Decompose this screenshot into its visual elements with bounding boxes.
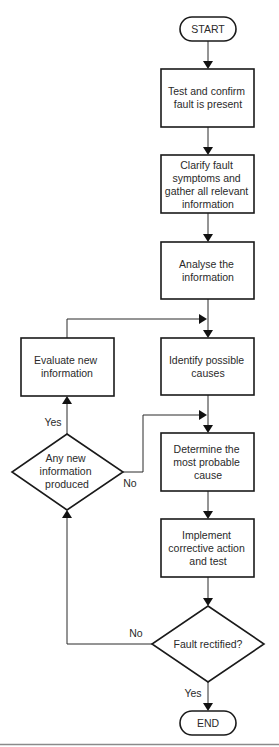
step-text: information: [182, 198, 234, 210]
step-clarify: Clarify fault symptoms and gather all re…: [161, 155, 254, 213]
svg-text:Test and confirm fault i: Test and confirm fault is present: [168, 85, 248, 110]
decision-text: Any new: [45, 452, 86, 464]
svg-text:Any new information: Any new information produced: [40, 452, 95, 490]
step-text: Analyse the: [179, 258, 234, 270]
step-text: fault is present: [174, 98, 242, 110]
step-text: Clarify fault: [180, 159, 233, 171]
step-implement: Implement corrective action and test: [161, 519, 254, 577]
decision-any-new-info: Any new information produced Yes No: [12, 416, 137, 510]
step-test-confirm: Test and confirm fault is present: [161, 69, 254, 127]
arrow-down-icon: [203, 598, 213, 606]
step-identify: Identify possible causes: [161, 338, 254, 395]
arrow-down-icon: [203, 425, 213, 433]
no-label: No: [123, 477, 137, 489]
step-analyse: Analyse the information: [161, 242, 254, 299]
arrow-right-icon: [199, 410, 207, 420]
step-text: corrective action: [168, 542, 245, 554]
arrow-down-icon: [203, 234, 213, 242]
step-text: Test and confirm: [168, 85, 245, 97]
fault-finding-flowchart: START Test and confirm fault is present …: [0, 0, 279, 747]
yes-label: Yes: [44, 416, 61, 428]
step-text: Implement: [182, 529, 231, 541]
end-terminator: END: [180, 711, 236, 735]
svg-text:Evaluate new information: Evaluate new information: [34, 354, 100, 379]
arrow-down-icon: [203, 330, 213, 338]
yes-label: Yes: [184, 687, 201, 699]
step-text: information: [41, 367, 93, 379]
arrow-up-icon: [62, 396, 72, 404]
no-label: No: [129, 627, 143, 639]
end-label: END: [197, 717, 220, 729]
start-terminator: START: [180, 17, 236, 41]
step-text: causes: [191, 367, 224, 379]
step-text: most probable: [173, 456, 240, 468]
step-text: Determine the: [174, 443, 240, 455]
svg-text:Analyse the information: Analyse the information: [179, 258, 237, 283]
step-text: gather all relevant: [165, 185, 249, 197]
decision-text: information: [40, 465, 92, 477]
decision-text: Fault rectified?: [174, 638, 243, 650]
step-text: symptoms and: [172, 172, 240, 184]
arrow-down-icon: [203, 703, 213, 711]
arrow-down-icon: [203, 61, 213, 69]
step-text: and test: [189, 555, 226, 567]
start-label: START: [191, 23, 225, 35]
arrow-right-icon: [199, 314, 207, 324]
step-text: cause: [194, 469, 222, 481]
decision-fault-rectified: Fault rectified? No Yes: [129, 606, 264, 699]
step-text: Evaluate new: [34, 354, 97, 366]
arrow-up-icon: [62, 510, 72, 518]
arrow-down-icon: [203, 511, 213, 519]
step-determine: Determine the most probable cause: [161, 433, 254, 491]
decision-text: produced: [45, 478, 89, 490]
arrow-down-icon: [203, 147, 213, 155]
step-text: Identify possible: [169, 354, 244, 366]
step-evaluate: Evaluate new information: [21, 338, 114, 396]
step-text: information: [182, 271, 234, 283]
